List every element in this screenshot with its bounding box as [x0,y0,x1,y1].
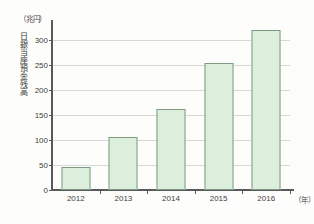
y-axis-tick-label: 0 [44,186,48,195]
y-axis-unit-label: （兆円） [19,13,46,24]
bar [61,167,90,190]
bar [109,137,138,191]
bar-slot [195,25,243,190]
x-axis-unit-label: （年） [294,194,314,205]
plot-area: 050100150200250300 [52,25,290,190]
bar-slot [147,25,195,190]
y-axis-tick-label: 250 [35,61,48,70]
y-axis-tick-label: 300 [35,36,48,45]
bar [204,63,233,191]
bar-slot [52,25,100,190]
x-axis-tick-mark [242,190,243,194]
bar [252,30,281,190]
x-axis-tick-mark [100,190,101,194]
y-axis-tick-label: 50 [39,161,48,170]
x-axis-tick-label: 2015 [210,194,228,203]
bar-series [52,25,290,190]
bar-chart: （兆円） 日銀当座預金残高 050100150200250300 2012201… [0,0,314,224]
x-axis-tick-mark [290,190,291,194]
x-axis-tick-label: 2016 [257,194,275,203]
x-axis-tick-label: 2012 [67,194,85,203]
y-axis-title: 日銀当座預金残高 [14,32,27,96]
y-axis-tick-label: 200 [35,86,48,95]
x-axis-tick-label: 2013 [114,194,132,203]
x-axis-tick-mark [147,190,148,194]
bar [156,109,185,191]
y-axis-tick-label: 100 [35,136,48,145]
x-axis-tick-mark [195,190,196,194]
bar-slot [242,25,290,190]
x-axis-tick-label: 2014 [162,194,180,203]
y-axis-tick-label: 150 [35,111,48,120]
bar-slot [100,25,148,190]
